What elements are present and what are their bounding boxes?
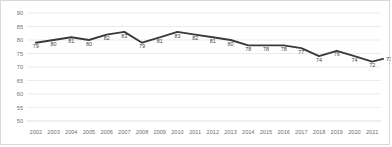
y-axis-tick-label: 70	[17, 64, 23, 70]
y-axis-tick-label: 85	[17, 24, 23, 30]
x-axis-tick-label: 2006	[100, 129, 112, 135]
y-axis-tick-label: 50	[17, 118, 23, 124]
y-axis-tick-label: 55	[17, 105, 23, 111]
x-axis-tick-label: 2017	[295, 129, 307, 135]
data-series-line	[36, 32, 383, 62]
data-point-label: 77	[298, 49, 304, 55]
x-axis-tick-label: 2011	[189, 129, 201, 135]
data-point-label: 80	[86, 41, 92, 47]
x-axis-tick-label: 2019	[331, 129, 343, 135]
x-axis-tick-label: 2002	[30, 129, 42, 135]
data-point-label: 82	[104, 35, 110, 41]
y-axis-tick-labels: 908580757065605550	[17, 10, 23, 124]
x-axis-tick-label: 2012	[207, 129, 219, 135]
data-point-label: 72	[369, 62, 375, 68]
x-axis-tick-label: 2020	[348, 129, 360, 135]
data-point-label: 80	[51, 41, 57, 47]
data-point-label: 82	[192, 35, 198, 41]
data-point-label: 78	[245, 46, 251, 52]
data-point-label: 78	[281, 46, 287, 52]
x-axis-tick-label: 2014	[242, 129, 254, 135]
x-axis-tick-label: 2008	[136, 129, 148, 135]
x-axis-tick-label: 2003	[47, 129, 59, 135]
chart-container: 908580757065605550 200220032004200520062…	[0, 0, 390, 145]
data-point-label: 80	[228, 41, 234, 47]
data-point-label: 83	[121, 33, 127, 39]
data-point-label: 76	[334, 51, 340, 57]
gridlines	[27, 13, 381, 121]
line-chart: 908580757065605550 200220032004200520062…	[1, 1, 391, 146]
x-axis-tick-label: 2018	[313, 129, 325, 135]
y-axis-tick-label: 80	[17, 37, 23, 43]
data-point-label: 79	[33, 43, 39, 49]
x-axis-tick-label: 2007	[118, 129, 130, 135]
data-point-label: 83	[174, 33, 180, 39]
data-point-label: 78	[263, 46, 269, 52]
x-axis-tick-label: 2005	[83, 129, 95, 135]
data-point-label: 81	[68, 38, 74, 44]
data-point-label: 74	[351, 57, 357, 63]
end-value-label: 73	[386, 56, 391, 62]
x-axis-tick-label: 2010	[171, 129, 183, 135]
data-point-label: 81	[157, 38, 163, 44]
data-point-label: 79	[139, 43, 145, 49]
x-axis-tick-label: 2016	[277, 129, 289, 135]
x-axis-tick-label: 2009	[154, 129, 166, 135]
y-axis-tick-label: 90	[17, 10, 23, 16]
x-axis-tick-labels: 2002200320042005200620072008200920102011…	[30, 129, 379, 135]
x-axis-tick-label: 2015	[260, 129, 272, 135]
data-point-label: 74	[316, 57, 322, 63]
x-axis-tick-label: 2021	[366, 129, 378, 135]
y-axis-tick-label: 60	[17, 91, 23, 97]
x-axis-tick-label: 2004	[65, 129, 77, 135]
y-axis-tick-label: 65	[17, 78, 23, 84]
y-axis-tick-label: 75	[17, 51, 23, 57]
x-axis-tick-label: 2013	[224, 129, 236, 135]
data-point-label: 81	[210, 38, 216, 44]
